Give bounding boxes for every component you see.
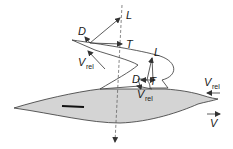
lower-drag-label: D <box>132 73 140 85</box>
lower-thrust-label: T <box>150 76 157 87</box>
swimming-diagram: L D T V rel L D T V rel V rel V <box>0 0 233 149</box>
upper-drag-label: D <box>78 25 86 37</box>
lower-lift-label: L <box>154 46 160 58</box>
lower-vrel-subscript: rel <box>145 95 153 102</box>
incoming-vrel-subscript: rel <box>212 83 220 90</box>
animal-body <box>14 89 218 123</box>
upper-lift-arrow <box>90 18 120 43</box>
body-stroke-mark <box>62 106 84 107</box>
upper-vrel-subscript: rel <box>86 63 94 70</box>
velocity-label: V <box>210 117 219 129</box>
upper-thrust-label: T <box>126 38 134 50</box>
upper-lift-label: L <box>126 9 132 21</box>
